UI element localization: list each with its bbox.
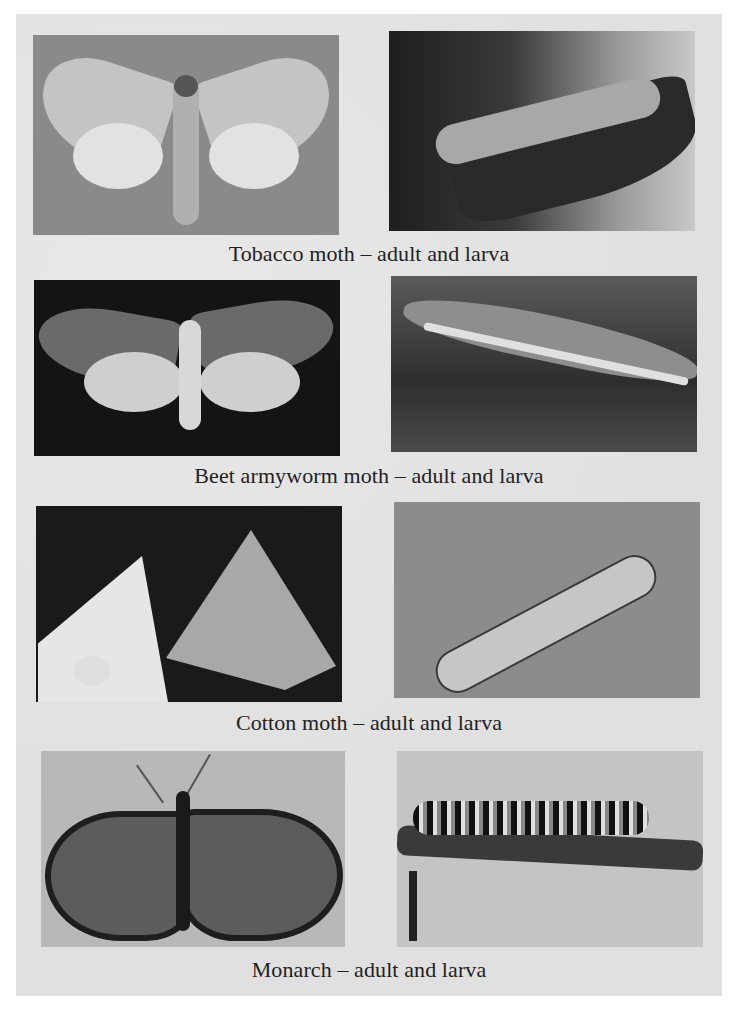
moth-left-spot [74,656,110,686]
moth-hindwing-right [200,352,300,412]
moth-right [166,530,336,690]
caption-cotton-moth: Cotton moth – adult and larva [16,710,722,736]
antenna-left [136,765,164,804]
beet-armyworm-adult-photo [34,280,340,456]
moth-body [179,320,201,430]
caption-monarch: Monarch – adult and larva [16,957,722,983]
cotton-moth-larva-photo [394,502,700,698]
hanging-leaf [409,871,417,941]
wing-right [181,809,343,941]
butterfly-body [176,791,190,931]
moth-head [174,75,198,97]
wing-left [45,811,197,941]
tobacco-moth-larva-photo [389,31,695,231]
caterpillar-body [413,801,649,835]
larva-body [428,547,664,698]
caption-beet-armyworm: Beet armyworm moth – adult and larva [16,463,722,489]
caption-tobacco-moth: Tobacco moth – adult and larva [16,241,722,267]
beet-armyworm-larva-photo [391,276,697,452]
figure-panel: Tobacco moth – adult and larva Beet army… [16,14,722,996]
moth-hindwing-right [209,123,299,189]
tobacco-moth-adult-photo [33,35,339,235]
moth-body [173,75,199,225]
cotton-moth-adult-photo [36,506,342,702]
moth-hindwing-left [84,352,184,412]
moth-hindwing-left [73,123,163,189]
monarch-larva-photo [397,751,703,947]
monarch-adult-photo [41,751,345,947]
